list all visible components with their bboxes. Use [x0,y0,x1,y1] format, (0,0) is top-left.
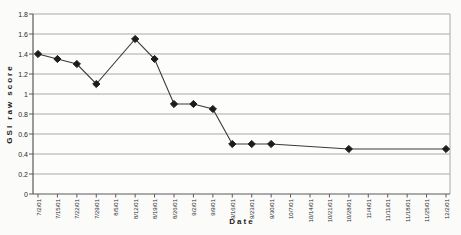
x-tick-label: 10/7/01 [288,198,294,219]
x-axis-title: Date [229,217,254,226]
x-tick-label: 10/21/01 [327,198,333,222]
x-tick-label: 7/22/01 [74,198,80,219]
y-tick-label: 0.8 [18,111,28,118]
x-tick-label: 8/26/01 [172,198,178,219]
x-tick-label: 10/14/01 [308,198,314,222]
y-tick-label: 1.8 [18,11,28,18]
x-tick-label: 9/16/01 [230,198,236,219]
x-tick-label: 11/18/01 [405,198,411,222]
x-tick-label: 7/2/01 [36,198,42,215]
y-tick-label: 1.2 [18,71,28,78]
x-tick-label: 9/9/01 [210,198,216,215]
x-tick-label: 9/30/01 [269,198,275,219]
plot-area: 1.81.61.41.210.80.60.40.207/2/017/15/017… [0,0,461,235]
y-tick-label: 0.6 [18,131,28,138]
y-tick-label: 1.4 [18,51,28,58]
x-tick-label: 8/12/01 [133,198,139,219]
x-tick-label: 10/28/01 [346,198,352,222]
x-tick-label: 11/4/01 [366,198,372,218]
y-tick-label: 1 [24,91,28,98]
x-tick-label: 7/15/01 [55,198,61,219]
y-tick-label: 0 [24,191,28,198]
plot-background [33,14,450,194]
x-tick-label: 9/2/01 [191,198,197,215]
x-tick-label: 12/2/01 [444,198,450,219]
x-tick-label: 8/5/01 [113,198,119,215]
x-tick-label: 11/11/01 [385,198,391,221]
y-tick-label: 0.4 [18,151,28,158]
x-tick-label: 9/23/01 [249,198,255,219]
x-tick-label: 11/25/01 [424,198,430,222]
x-tick-label: 7/29/01 [94,198,100,219]
y-tick-label: 1.6 [18,31,28,38]
y-axis-title: GSI raw score [5,64,14,143]
x-tick-label: 8/19/01 [152,198,158,219]
chart: 1.81.61.41.210.80.60.40.207/2/017/15/017… [0,0,461,235]
y-tick-label: 0.2 [18,171,28,178]
